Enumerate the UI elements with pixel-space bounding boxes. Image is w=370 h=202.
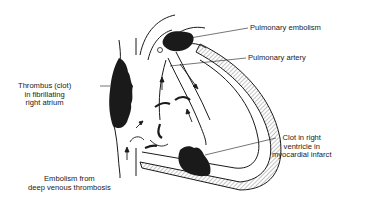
label-pulmonary-embolism: Pulmonary embolism [250, 24, 321, 33]
valve-leaflet [155, 103, 170, 107]
label-embolism-dvt: Embolism from deep venous thrombosis [28, 175, 111, 192]
label-pulmonary-artery: Pulmonary artery [248, 54, 306, 63]
septum [168, 58, 206, 145]
ventricle-wall [140, 44, 281, 190]
label-clot-ventricle: Clot in right ventricle in myocardial in… [272, 134, 332, 160]
pulmonary-embolism-clot [163, 31, 194, 51]
label-thrombus: Thrombus (clot) in fibrillating right at… [18, 82, 71, 108]
atrial-thrombus [109, 58, 133, 128]
